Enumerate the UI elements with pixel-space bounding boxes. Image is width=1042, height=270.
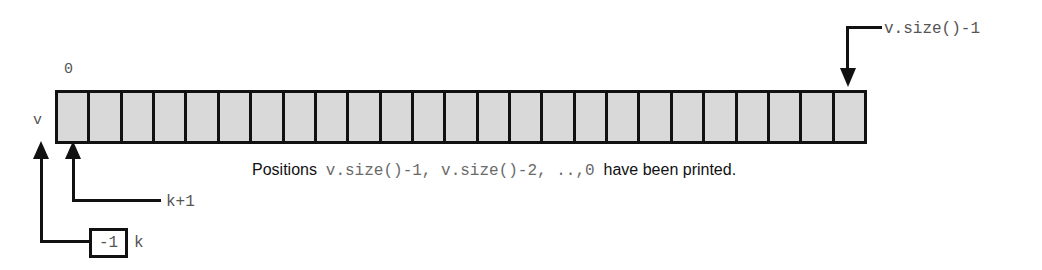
array-cell: [58, 93, 90, 141]
vsize-connector-vertical: [846, 26, 849, 70]
kplus1-connector-horizontal: [72, 199, 161, 202]
array-cell: [349, 93, 381, 141]
array-cell: [252, 93, 284, 141]
caption-space-1: [317, 161, 326, 178]
array-cell: [608, 93, 640, 141]
array-cell: [317, 93, 349, 141]
array-cell: [414, 93, 446, 141]
caption-space-2: [595, 161, 604, 178]
array-cell: [446, 93, 478, 141]
kplus1-pointer-label: k+1: [166, 194, 195, 210]
array-cell: [155, 93, 187, 141]
array-start-index-label: 0: [64, 62, 73, 77]
caption-segment-1: Positions: [252, 161, 317, 178]
caption-segment-2: v.size()-1, v.size()-2, ..,0: [326, 162, 595, 180]
array-cell: [187, 93, 219, 141]
array-cell: [802, 93, 834, 141]
k-connector-vertical: [40, 156, 43, 242]
array-name-label: v: [33, 113, 42, 128]
vsize-arrowhead-icon: [840, 68, 856, 87]
k-connector-horizontal: [40, 240, 91, 243]
kplus1-connector-vertical: [72, 156, 75, 202]
array-cell: [382, 93, 414, 141]
array-cell: [479, 93, 511, 141]
caption-segment-3: have been printed.: [604, 161, 737, 178]
array-cell: [220, 93, 252, 141]
array-cell: [576, 93, 608, 141]
diagram-canvas: v.size()-1 0 v Positions v.size()-1, v.s…: [0, 0, 1042, 270]
array-cell: [90, 93, 122, 141]
caption-text: Positions v.size()-1, v.size()-2, ..,0 h…: [252, 160, 736, 181]
array-cell: [705, 93, 737, 141]
array-cell: [285, 93, 317, 141]
array-cell: [123, 93, 155, 141]
array-cell: [511, 93, 543, 141]
array-cell: [543, 93, 575, 141]
array-cell: [738, 93, 770, 141]
array-cell: [770, 93, 802, 141]
array-cell: [835, 93, 864, 141]
k-value-box: -1: [89, 228, 128, 258]
array-cell: [640, 93, 672, 141]
vsize-pointer-label: v.size()-1: [884, 21, 980, 37]
array-cells-container: [55, 90, 867, 144]
k-variable-label: k: [134, 235, 144, 251]
vsize-connector-horizontal: [846, 26, 882, 29]
array-cell: [673, 93, 705, 141]
